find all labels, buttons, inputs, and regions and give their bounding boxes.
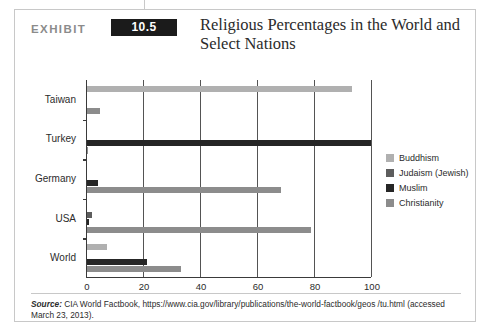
legend-label: Christianity: [399, 198, 444, 208]
bar-germany-muslim: [87, 180, 98, 186]
exhibit-label: EXHIBIT: [31, 23, 86, 35]
legend-item-muslim[interactable]: Muslim: [386, 181, 472, 195]
bar-germany-christianity: [87, 187, 281, 193]
exhibit-number-badge: 10.5: [111, 19, 177, 36]
gridline: [200, 80, 201, 277]
category-label-world: World: [50, 252, 76, 263]
bar-taiwan-christianity: [87, 108, 100, 114]
source-text: CIA World Factbook, https://www.cia.gov/…: [31, 299, 445, 320]
category-axis-tick: [83, 120, 87, 121]
bar-turkey-christianity: [87, 147, 88, 153]
x-tick-label: 40: [196, 281, 207, 292]
legend-label: Buddhism: [399, 153, 439, 163]
legend-item-judaism-jewish[interactable]: Judaism (Jewish): [386, 166, 472, 180]
legend-swatch-icon: [386, 184, 394, 192]
category-label-germany: Germany: [35, 173, 76, 184]
exhibit-header: EXHIBIT 10.5 Religious Percentages in th…: [15, 10, 475, 68]
page-fold-line: [144, 0, 145, 9]
x-tick-label: 100: [364, 281, 380, 292]
x-tick-label: 20: [139, 281, 150, 292]
x-tick-label: 80: [310, 281, 321, 292]
category-label-turkey: Turkey: [46, 133, 76, 144]
source-label: Source:: [31, 299, 62, 309]
bar-usa-christianity: [87, 227, 311, 233]
category-axis-tick: [83, 199, 87, 200]
legend-item-christianity[interactable]: Christianity: [386, 196, 472, 210]
category-axis-tick: [83, 238, 87, 239]
chart-area: 020406080100WorldUSAGermanyTurkeyTaiwan …: [15, 68, 477, 293]
exhibit-title: Religious Percentages in the World and S…: [200, 15, 465, 53]
bar-usa-muslim: [87, 219, 89, 225]
legend-label: Muslim: [399, 183, 428, 193]
category-label-taiwan: Taiwan: [45, 94, 76, 105]
exhibit-frame: EXHIBIT 10.5 Religious Percentages in th…: [14, 9, 476, 322]
legend-swatch-icon: [386, 154, 394, 162]
plot-area: 020406080100WorldUSAGermanyTurkeyTaiwan: [86, 80, 371, 278]
bar-turkey-muslim: [87, 140, 371, 146]
bar-world-muslim: [87, 259, 147, 265]
legend-swatch-icon: [386, 169, 394, 177]
gridline: [143, 80, 144, 277]
exhibit-number: 10.5: [111, 19, 177, 36]
bar-usa-judaism-jewish: [87, 212, 92, 218]
legend-swatch-icon: [386, 199, 394, 207]
gridline: [257, 80, 258, 277]
legend-label: Judaism (Jewish): [399, 168, 469, 178]
gridline: [371, 80, 372, 277]
category-label-usa: USA: [55, 213, 76, 224]
source-divider: [31, 293, 461, 294]
legend-item-buddhism[interactable]: Buddhism: [386, 151, 472, 165]
source-note: Source: CIA World Factbook, https://www.…: [31, 299, 463, 321]
x-tick-label: 60: [253, 281, 264, 292]
x-tick-label: 0: [84, 281, 89, 292]
bar-taiwan-buddhism: [87, 86, 352, 92]
bar-world-christianity: [87, 266, 181, 272]
bar-world-buddhism: [87, 244, 107, 250]
category-axis-tick: [83, 159, 87, 160]
chart-legend: BuddhismJudaism (Jewish)MuslimChristiani…: [386, 151, 472, 211]
gridline: [314, 80, 315, 277]
